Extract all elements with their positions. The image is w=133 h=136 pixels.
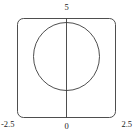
x-axis-tick-label-center: 0 [0,122,133,131]
plot-figure: 5 0 -2.5 2.5 [0,0,133,136]
plot-canvas [0,0,133,136]
y-axis-tick-label-top: 5 [0,3,133,12]
x-axis-tick-label-right: 2.5 [121,120,132,129]
x-axis-tick-label-left: -2.5 [1,120,14,129]
